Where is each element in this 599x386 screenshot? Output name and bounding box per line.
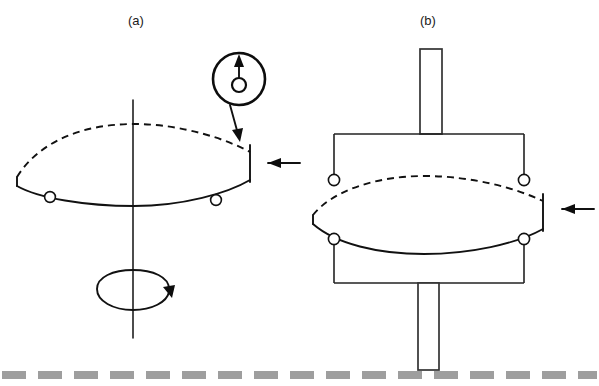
panel-b: (b) [313,13,594,370]
disc-bottom-arc-b [313,224,543,254]
upper-bracket-b [334,134,524,174]
inset-force-arrowhead [234,54,244,67]
roller-b-lower-left [328,233,339,244]
panel-b-label: (b) [420,13,436,28]
panel-a-label: (a) [128,13,144,28]
inset-roller-hub [232,78,246,92]
upper-shaft-b [420,49,442,134]
roller-detail-inset [213,53,265,105]
roller-b-lower-right [518,233,529,244]
lower-bracket-b [334,245,524,283]
panel-a: (a) [17,13,300,338]
load-arrow-a [268,158,300,168]
roller-b-upper-left [328,174,339,185]
lower-shaft-b [418,283,439,370]
rotation-arrow-a [97,270,175,310]
roller-a-right [211,195,222,206]
figure-container: (a) [0,0,599,386]
technical-diagram: (a) [0,0,599,386]
disc-top-arc-b [313,176,543,215]
callout-leader-a [230,105,243,142]
roller-b-upper-right [518,174,529,185]
load-arrow-b [562,204,594,214]
roller-a-left [45,192,56,203]
